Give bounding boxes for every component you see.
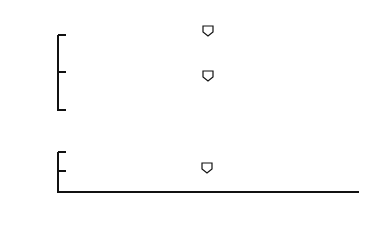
parity-chart — [0, 0, 373, 229]
stillborn-arrow-icon — [202, 163, 212, 173]
born-alive-arrow-icon — [203, 26, 213, 36]
upper-y-axis — [58, 35, 66, 111]
reared-arrow-icon — [203, 71, 213, 81]
